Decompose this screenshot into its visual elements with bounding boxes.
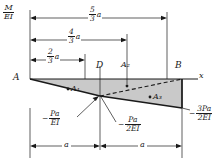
value2-sign: − <box>118 120 125 129</box>
dimension-label-4-3a: 4 3 a <box>67 28 81 44</box>
dim3-suffix: a <box>54 52 59 61</box>
value-label-pa-ei: − Pa EI <box>42 110 60 126</box>
dim2-suffix: a <box>75 32 80 41</box>
dim1-numerator: 5 <box>89 6 96 14</box>
value1-denominator: EI <box>49 118 60 127</box>
area-label-a2: A₂ <box>121 60 130 69</box>
dimension-label-5-3a: 5 3 a <box>88 6 102 22</box>
dimension-label-bottom-right: a <box>138 140 147 149</box>
value-label-pa-2ei: − Pa 2EI <box>118 116 141 132</box>
axis-label-denominator: EI <box>3 12 14 21</box>
axis-label-numerator: M <box>3 4 14 12</box>
dimension-label-2-3a: 2 3 a <box>46 48 60 64</box>
dim3-denominator: 3 <box>47 56 54 65</box>
value2-numerator: Pa <box>125 116 140 124</box>
area-label-a1: A₁ <box>71 84 80 93</box>
vertical-axis-label: M EI <box>3 4 14 21</box>
leader-pa-ei <box>77 96 99 117</box>
dim2-denominator: 3 <box>68 36 75 45</box>
centroid-dot-a3 <box>149 96 152 99</box>
shaded-area-a2-a3 <box>100 79 182 108</box>
value3-numerator: 3Pa <box>196 105 212 113</box>
value1-numerator: Pa <box>49 110 60 118</box>
point-label-a: A <box>13 72 20 82</box>
value1-sign: − <box>42 114 49 123</box>
moment-diagram-figure: M EI 5 3 a 4 3 a 2 3 a A D B x A₁ A₂ A₃ … <box>0 0 216 165</box>
dim1-denominator: 3 <box>89 14 96 23</box>
area-label-a3: A₃ <box>153 92 162 101</box>
dimension-label-bottom-left: a <box>62 140 71 149</box>
centroid-dot-a2 <box>126 85 129 88</box>
dim3-numerator: 2 <box>47 48 54 56</box>
leader-pa-2ei <box>101 97 116 122</box>
value2-denominator: 2EI <box>125 124 140 133</box>
dim2-numerator: 4 <box>68 28 75 36</box>
dim1-suffix: a <box>96 10 101 19</box>
value3-sign: − <box>189 109 196 118</box>
value3-denominator: 2EI <box>196 113 212 122</box>
x-axis-label: x <box>199 71 204 80</box>
diagram-canvas <box>0 0 216 165</box>
point-label-b: B <box>175 60 182 70</box>
value-label-3pa-2ei: − 3Pa 2EI <box>189 105 212 121</box>
point-label-d: D <box>96 60 103 70</box>
centroid-dot-a1 <box>67 88 70 91</box>
